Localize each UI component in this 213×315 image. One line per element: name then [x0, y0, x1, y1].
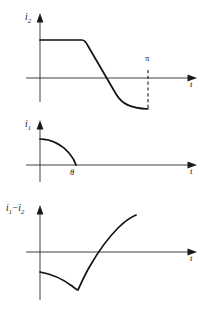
- panel-i1-group: [26, 120, 197, 182]
- panel-i2-group: [26, 13, 197, 109]
- panel-i1-curve: [40, 139, 76, 165]
- panel-i1-y-axis-label-subscript: 1: [28, 124, 31, 131]
- panel-i1-minus-i2-y-axis-arrowhead: [37, 205, 44, 215]
- figure-root: i2 π t i1 θ t i1−i2 t: [0, 0, 213, 315]
- panel-i2-x-axis-label: t: [190, 80, 193, 89]
- panel-i2-curve: [40, 40, 148, 109]
- panel-i1-minus-i2-y-axis-label: i1−i2: [6, 204, 24, 215]
- panel-i2-y-axis-arrowhead: [37, 13, 44, 23]
- panel-i2-y-axis-label-subscript: 2: [28, 17, 31, 24]
- panel-i1-minus-i2-curve: [40, 215, 136, 290]
- panel-i1-minus-i2-x-axis-label: t: [190, 254, 193, 263]
- panel-i1-theta-tick-label: θ: [70, 168, 74, 177]
- panel-i1-x-axis-label: t: [190, 167, 193, 176]
- panel-i1-minus-i2-label-second-subscript: 2: [21, 208, 24, 215]
- panel-i1-y-axis-label: i1: [25, 120, 31, 131]
- panel-i1-minus-i2-group: [26, 205, 197, 300]
- panel-i2-y-axis-label: i2: [25, 13, 31, 24]
- panel-i1-y-axis-arrowhead: [37, 120, 44, 130]
- figure-canvas: [0, 0, 213, 315]
- panel-i2-pi-tick-label: π: [145, 54, 149, 63]
